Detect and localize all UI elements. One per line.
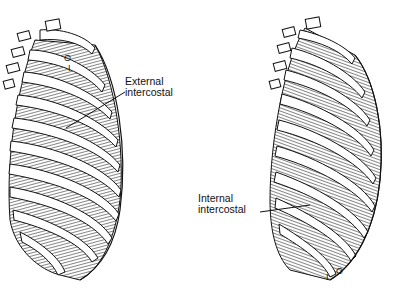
origin-mark-right: O xyxy=(336,266,343,276)
internal-intercostal-label: Internal intercostal xyxy=(198,193,246,215)
left-ribcage xyxy=(3,19,123,280)
insertion-mark-right: I xyxy=(326,272,329,282)
label-line-2: intercostal xyxy=(198,204,246,215)
ribcage-illustration xyxy=(0,0,397,292)
insertion-mark-left: I xyxy=(68,63,71,73)
label-line-2: intercostal xyxy=(125,87,173,98)
right-ribcage xyxy=(269,17,381,280)
origin-mark-left: O xyxy=(64,53,71,63)
external-intercostal-label: External intercostal xyxy=(125,76,173,98)
